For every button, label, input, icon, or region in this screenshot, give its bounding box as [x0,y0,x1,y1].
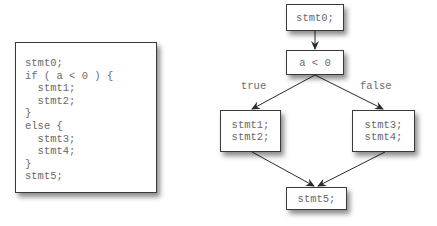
node-condition: a < 0 [286,50,344,75]
node-condition-text: a < 0 [299,57,331,69]
edge-false-to-end [318,152,385,186]
node-end-text: stmt5; [298,193,336,205]
node-false-line: stmt4; [365,131,403,143]
node-start: stmt0; [286,4,344,31]
node-true-line: stmt1; [232,119,270,131]
node-false-line: stmt3; [365,119,403,131]
node-true-branch: stmt1; stmt2; [220,110,281,152]
node-end: stmt5; [286,187,347,210]
node-true-line: stmt2; [232,131,270,143]
edge-true-to-end [252,152,314,186]
edge-label-true: true [241,80,266,92]
edge-label-false: false [360,80,392,92]
node-start-text: stmt0; [296,12,334,24]
node-false-branch: stmt3; stmt4; [352,110,415,152]
